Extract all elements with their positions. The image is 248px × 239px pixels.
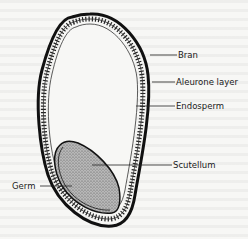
- label-bran: Bran: [178, 50, 198, 60]
- label-scutellum: Scutellum: [173, 160, 215, 170]
- kernel-diagram: [0, 0, 248, 239]
- label-endosperm: Endosperm: [176, 101, 224, 111]
- label-germ: Germ: [12, 181, 35, 191]
- label-aleurone-layer: Aleurone layer: [176, 77, 238, 87]
